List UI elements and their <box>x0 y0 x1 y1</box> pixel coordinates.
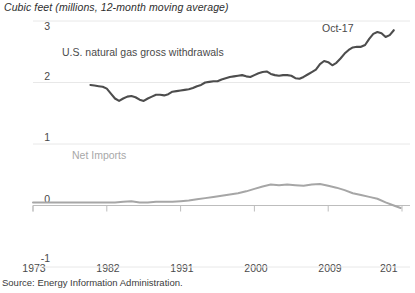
series-line-withdrawals <box>90 30 393 101</box>
chart-plot-area <box>0 0 415 293</box>
chart-container: Cubic feet (millions, 12-month moving av… <box>0 0 415 293</box>
series-line-net-imports <box>33 184 401 208</box>
source-note: Source: Energy Information Administratio… <box>2 277 183 288</box>
